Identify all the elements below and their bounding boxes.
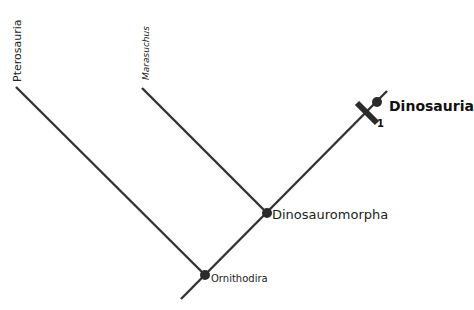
taxon-label-marasuchus: Marasuchus — [141, 26, 151, 80]
marasuchus-branch — [142, 88, 267, 213]
node-label-dinosauromorpha: Dinosauromorpha — [272, 207, 388, 222]
taxon-label-dinosauria: Dinosauria — [389, 98, 474, 114]
synapomorphy-label: 1 — [377, 118, 384, 129]
dinosauromorpha-node — [262, 208, 272, 218]
taxon-label-pterosauria: Pterosauria — [11, 20, 24, 83]
node-label-ornithodira: Ornithodira — [211, 273, 268, 284]
dinosauria-node — [372, 97, 382, 107]
main-stem-line — [181, 91, 387, 299]
ornithodira-node — [200, 270, 210, 280]
pterosauria-branch — [16, 87, 205, 275]
